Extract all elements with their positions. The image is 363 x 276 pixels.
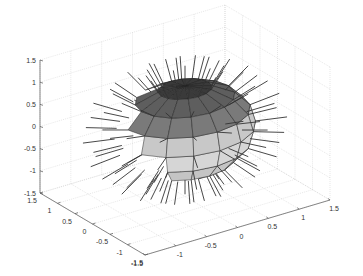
y-tick bbox=[75, 213, 78, 214]
z-tick-label: -0.5 bbox=[24, 145, 36, 152]
grid-line bbox=[40, 5, 225, 60]
z-tick bbox=[40, 149, 43, 150]
y-tick-label: -1 bbox=[116, 249, 122, 256]
x-tick bbox=[174, 244, 176, 246]
x-tick-label: -1.5 bbox=[131, 260, 143, 267]
x-tick-label: 1.5 bbox=[329, 205, 339, 212]
normal-vector bbox=[253, 132, 284, 133]
z-tick bbox=[40, 171, 43, 172]
sphere-facet bbox=[166, 156, 194, 172]
y-tick-label: 1 bbox=[48, 207, 52, 214]
normal-vector bbox=[176, 58, 179, 80]
z-tick bbox=[40, 127, 43, 128]
normal-vector bbox=[146, 174, 158, 194]
normal-vector bbox=[138, 78, 153, 94]
x-tick bbox=[266, 217, 268, 219]
sphere-normals-3d-plot: 1.510.50-0.5-1-1.51.510.50-0.5-1-1.5-1.5… bbox=[0, 0, 363, 276]
normal-vector bbox=[255, 117, 287, 121]
x-tick bbox=[236, 226, 238, 228]
sphere-facet bbox=[141, 136, 167, 158]
normal-vector bbox=[86, 128, 117, 129]
y-tick-label: 0.5 bbox=[62, 218, 72, 225]
normal-vector bbox=[225, 170, 243, 188]
normal-vector bbox=[115, 83, 137, 98]
normal-vector bbox=[202, 57, 210, 80]
y-tick-label: 1.5 bbox=[27, 197, 37, 204]
x-tick bbox=[328, 199, 330, 201]
normal-vector bbox=[93, 103, 121, 111]
normal-vector bbox=[250, 93, 279, 104]
normal-vector bbox=[128, 72, 146, 90]
normal-vector bbox=[198, 56, 204, 79]
normal-vector bbox=[188, 181, 190, 204]
x-tick bbox=[297, 208, 299, 210]
x-tick-label: -0.5 bbox=[205, 242, 217, 249]
z-tick-label: 1 bbox=[32, 79, 36, 86]
y-tick bbox=[58, 202, 61, 203]
y-tick-label: -0.5 bbox=[96, 238, 108, 245]
z-tick-label: 0 bbox=[32, 123, 36, 130]
normal-vector bbox=[233, 163, 255, 178]
x-tick-label: 1 bbox=[301, 214, 305, 221]
y-tick bbox=[110, 233, 113, 234]
normal-vector bbox=[180, 56, 182, 79]
normal-vector bbox=[191, 180, 194, 202]
z-tick-label: 0.5 bbox=[26, 101, 36, 108]
normal-vector bbox=[198, 179, 204, 201]
y-tick bbox=[145, 254, 148, 255]
grid-line bbox=[225, 5, 330, 67]
normal-vector bbox=[115, 160, 137, 174]
normal-vector bbox=[248, 148, 276, 156]
z-tick bbox=[40, 104, 43, 105]
x-tick-label: 0 bbox=[240, 233, 244, 240]
sphere-facet bbox=[166, 137, 194, 157]
y-tick bbox=[93, 223, 96, 224]
y-tick-label: 0 bbox=[83, 228, 87, 235]
normal-vector bbox=[161, 180, 169, 203]
normal-vector bbox=[250, 139, 279, 143]
normal-vector bbox=[110, 89, 133, 102]
normal-vector bbox=[122, 174, 142, 194]
normal-vector bbox=[166, 59, 172, 81]
normal-vector bbox=[248, 108, 276, 115]
normal-vector bbox=[91, 155, 120, 166]
y-tick bbox=[128, 244, 131, 245]
x-tick-label: -1 bbox=[177, 251, 183, 258]
x-tick-label: 0.5 bbox=[267, 223, 277, 230]
z-tick-label: -1.5 bbox=[24, 190, 36, 197]
normal-vector bbox=[91, 117, 120, 121]
x-tick bbox=[205, 235, 207, 237]
normal-vector bbox=[104, 112, 129, 117]
z-tick-label: 1.5 bbox=[26, 57, 36, 64]
normal-vector bbox=[83, 139, 115, 143]
normal-vector bbox=[242, 81, 268, 96]
normal-vector bbox=[229, 66, 249, 86]
z-tick bbox=[40, 60, 43, 61]
normal-vector bbox=[158, 158, 166, 170]
normal-vector bbox=[93, 145, 121, 152]
normal-vector bbox=[102, 164, 128, 179]
z-tick-label: -1 bbox=[30, 167, 36, 174]
normal-vector bbox=[166, 181, 172, 204]
z-tick bbox=[40, 82, 43, 83]
normal-vector bbox=[175, 182, 178, 205]
sphere-facet bbox=[168, 171, 194, 181]
normal-vector bbox=[113, 94, 135, 105]
y-tick bbox=[40, 192, 43, 193]
sphere-facet bbox=[168, 117, 194, 138]
